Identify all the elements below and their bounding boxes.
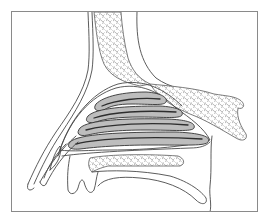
illustration-canvas bbox=[0, 0, 269, 223]
soft-palate bbox=[92, 171, 206, 204]
nasal-anatomy-illustration bbox=[0, 0, 269, 223]
hard-palate bbox=[89, 155, 184, 172]
